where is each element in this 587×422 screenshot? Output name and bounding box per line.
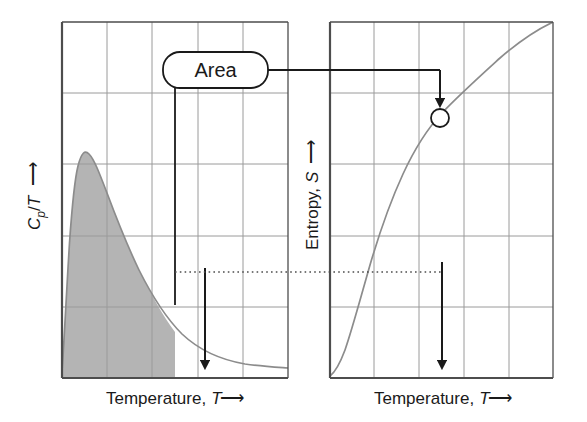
left-y-axis-label-group: Cp/T ⟶ [24, 162, 48, 230]
left-x-axis-label: Temperature,T [106, 389, 223, 408]
right-y-axis-arrow: ⟶ [302, 140, 321, 164]
area-callout-group[interactable]: Area [163, 52, 440, 88]
right-y-axis-label: Entropy,S [303, 171, 322, 250]
left-y-axis-label: Cp/T [25, 194, 48, 230]
area-callout-label: Area [194, 59, 237, 81]
right-y-axis-label-group: Entropy,S ⟶ [302, 140, 322, 250]
entropy-point-marker [431, 109, 449, 127]
right-x-axis-arrow: ⟶ [488, 389, 512, 408]
figure-root: Cp/T ⟶ Temperature,T ⟶ [0, 0, 587, 422]
entropy-panel: Entropy,S ⟶ Temperature,T ⟶ [302, 22, 553, 408]
left-y-axis-arrow: ⟶ [24, 162, 43, 186]
figure-canvas: Cp/T ⟶ Temperature,T ⟶ [0, 0, 587, 422]
left-x-axis-arrow: ⟶ [220, 389, 244, 408]
right-x-axis-label: Temperature,T [374, 389, 491, 408]
area-under-curve [62, 152, 175, 378]
